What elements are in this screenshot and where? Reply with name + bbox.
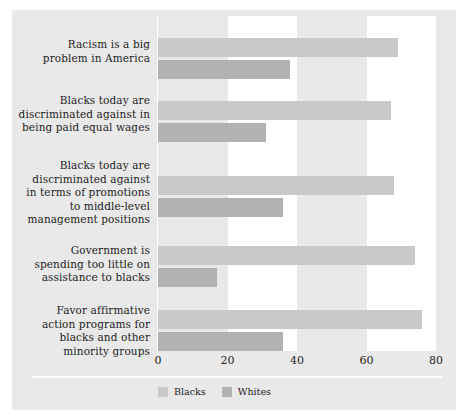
category-label-line: blacks and other [14, 331, 150, 345]
x-tick-label-40: 40 [290, 354, 304, 367]
bar-whites-4 [158, 332, 283, 351]
category-labels: Racism is a bigproblem in AmericaBlacks … [14, 16, 150, 351]
bar-whites-2 [158, 198, 283, 217]
x-tick-label-80: 80 [429, 354, 443, 367]
legend-label-whites: Whites [238, 386, 271, 397]
category-label-line: Favor affirmative [14, 304, 150, 318]
bar-whites-1 [158, 123, 266, 142]
legend-label-blacks: Blacks [174, 386, 206, 397]
category-label-line: assistance to blacks [14, 271, 150, 285]
bar-blacks-4 [158, 310, 422, 329]
bar-chart: Racism is a bigproblem in AmericaBlacks … [0, 0, 468, 419]
category-label-line: being paid equal wages [14, 121, 150, 135]
category-label-3: Government isspending too little onassis… [14, 244, 150, 285]
x-axis-ticks: 020406080 [158, 354, 436, 372]
category-label-line: Blacks today are [14, 159, 150, 173]
category-label-line: Racism is a big [14, 38, 150, 52]
bar-blacks-2 [158, 176, 394, 195]
legend-swatch-blacks-icon [158, 387, 168, 397]
category-label-line: in terms of promotions [14, 186, 150, 200]
x-tick-label-60: 60 [360, 354, 374, 367]
category-label-line: discriminated against in [14, 108, 150, 122]
x-tick-label-20: 20 [221, 354, 235, 367]
legend-swatch-whites-icon [222, 387, 232, 397]
category-label-line: discriminated against [14, 173, 150, 187]
bar-whites-3 [158, 268, 217, 287]
bar-blacks-1 [158, 101, 391, 120]
category-label-line: Government is [14, 244, 150, 258]
bar-blacks-0 [158, 38, 398, 57]
category-label-line: Blacks today are [14, 94, 150, 108]
category-label-line: minority groups [14, 345, 150, 359]
category-label-line: problem in America [14, 52, 150, 66]
bar-blacks-3 [158, 246, 415, 265]
category-label-4: Favor affirmativeaction programs forblac… [14, 304, 150, 358]
category-label-line: action programs for [14, 318, 150, 332]
bars-layer [158, 16, 436, 351]
legend-item-whites[interactable]: Whites [222, 386, 271, 397]
x-tick-label-0: 0 [155, 354, 162, 367]
legend-item-blacks[interactable]: Blacks [158, 386, 206, 397]
category-label-line: spending too little on [14, 258, 150, 272]
category-label-0: Racism is a bigproblem in America [14, 38, 150, 65]
chart-legend: Blacks Whites [158, 386, 271, 397]
category-label-line: to middle-level [14, 200, 150, 214]
category-label-1: Blacks today arediscriminated against in… [14, 94, 150, 135]
category-label-line: management positions [14, 213, 150, 227]
category-label-2: Blacks today arediscriminated againstin … [14, 159, 150, 227]
x-axis-line [32, 376, 442, 378]
bar-whites-0 [158, 60, 290, 79]
